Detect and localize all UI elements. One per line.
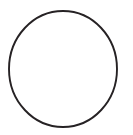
figure-canvas xyxy=(0,0,133,135)
circle-diagram xyxy=(0,0,133,135)
canvas-background xyxy=(0,0,133,135)
